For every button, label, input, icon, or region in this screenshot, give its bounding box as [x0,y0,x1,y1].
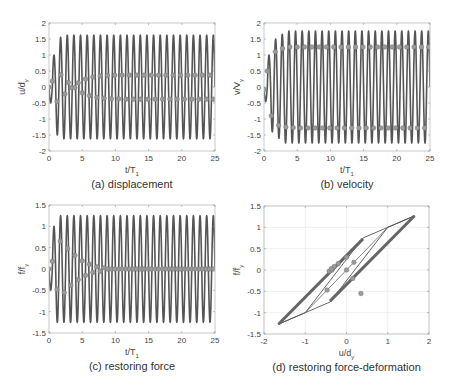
data-marker [397,45,402,50]
data-marker [95,265,100,270]
data-marker [182,97,187,102]
y-tick-label: 0 [257,83,262,92]
data-marker [76,81,81,86]
data-marker [346,45,351,50]
data-marker [80,90,85,95]
data-marker [419,45,424,50]
y-tick-label: -1 [254,309,262,318]
x-tick-label: 5 [295,154,300,163]
data-marker [361,45,366,50]
data-marker [66,80,71,85]
data-marker [142,73,147,78]
x-tick-label: 15 [359,154,368,163]
y-tick-label: 1.5 [35,201,47,210]
subplot-restoring-force: 0510152025-1.5-1-0.500.511.5t/T1f/fy(c) … [17,201,220,372]
y-tick-label: -1.5 [32,329,46,338]
x-tick-label: 25 [211,154,220,163]
data-marker [339,45,344,50]
data-marker [371,126,376,131]
x-tick-label: 5 [80,336,85,345]
y-tick-label: 1.5 [35,35,47,44]
data-marker [189,97,194,102]
data-marker [116,97,121,102]
data-marker [105,73,110,78]
data-marker [375,45,380,50]
data-marker [102,96,107,101]
data-marker [73,85,78,90]
y-tick-label: 1.5 [250,35,262,44]
data-marker [408,126,413,131]
x-tick-label: 1 [386,337,391,346]
x-tick-label: 15 [144,154,153,163]
data-marker [146,97,151,102]
data-marker [415,126,420,131]
data-marker [171,73,176,78]
y-tick-label: 0.5 [250,245,262,254]
data-marker [310,45,315,50]
data-marker [160,97,165,102]
y-tick-label: -1.5 [247,131,261,140]
data-marker [325,288,330,293]
y-tick-label: -1.5 [32,131,46,140]
data-marker [91,270,96,275]
data-marker [280,46,285,51]
data-marker [317,45,322,50]
data-marker [87,262,92,267]
data-marker [76,277,81,282]
y-tick-label: 0 [42,83,47,92]
data-marker [404,45,409,50]
y-tick-label: -2 [254,147,262,156]
data-marker [302,45,307,50]
x-tick-label: 5 [80,154,85,163]
y-tick-label: 1 [42,51,47,60]
x-tick-label: 0 [47,154,52,163]
y-tick-label: 0.5 [250,67,262,76]
data-marker [63,92,68,97]
data-marker [352,260,357,265]
data-marker [383,45,388,50]
data-marker [95,95,100,100]
data-marker [87,93,92,98]
data-marker [204,97,209,102]
data-marker [175,97,180,102]
data-marker [193,73,198,78]
data-marker [313,126,318,131]
y-tick-label: -1 [254,115,262,124]
data-marker [91,75,96,80]
y-tick-label: 2 [42,19,47,28]
data-marker [344,255,349,260]
data-marker [400,126,405,131]
x-tick-label: 2 [427,337,432,346]
data-marker [288,45,293,50]
data-marker [291,125,296,130]
data-marker [50,79,55,84]
x-tick-label: 10 [111,154,120,163]
data-marker [138,97,143,102]
data-marker [320,126,325,131]
x-tick-label: 0 [47,336,52,345]
data-marker [276,123,281,128]
data-marker [284,125,289,130]
data-marker [83,273,88,278]
y-tick-label: -1.5 [247,330,261,339]
data-marker [156,73,161,78]
data-marker [59,73,64,78]
subplot-velocity: 0510152025-2-1.5-1-0.500.511.52t/T1v/Vy(… [232,19,435,190]
data-marker [386,126,391,131]
plot-area [47,35,216,139]
data-marker [269,114,274,119]
x-tick-label: 20 [392,154,401,163]
data-marker [98,269,103,274]
data-marker [164,73,169,78]
y-axis-label: v/Vy [232,79,244,95]
subplot-displacement: 0510152025-2-1.5-1-0.500.511.52t/T1u/dy(… [17,19,220,190]
x-tick-label: 20 [177,154,186,163]
data-marker [185,73,190,78]
data-marker [109,97,114,102]
y-tick-label: 2 [257,19,262,28]
plot-area [262,31,431,143]
data-marker [335,126,340,131]
data-marker [149,73,154,78]
data-marker [295,45,300,50]
data-marker [200,73,205,78]
